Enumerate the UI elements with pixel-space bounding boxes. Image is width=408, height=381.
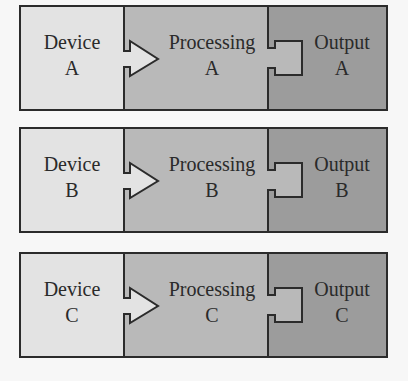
output-title: Output bbox=[302, 29, 382, 55]
output-title: Output bbox=[302, 151, 382, 177]
device-label: Device C bbox=[22, 276, 122, 328]
device-title: Device bbox=[22, 151, 122, 177]
processing-letter: A bbox=[157, 55, 267, 81]
processing-label: Processing B bbox=[157, 151, 267, 203]
device-label: Device A bbox=[22, 29, 122, 81]
device-title: Device bbox=[22, 29, 122, 55]
output-label: Output A bbox=[302, 29, 382, 81]
output-letter: C bbox=[302, 302, 382, 328]
processing-title: Processing bbox=[157, 29, 267, 55]
device-letter: C bbox=[22, 302, 122, 328]
pipeline-row-a: Device A Processing A Output A bbox=[0, 6, 408, 110]
device-label: Device B bbox=[22, 151, 122, 203]
processing-label: Processing C bbox=[157, 276, 267, 328]
output-label: Output B bbox=[302, 151, 382, 203]
processing-title: Processing bbox=[157, 276, 267, 302]
output-letter: B bbox=[302, 177, 382, 203]
output-title: Output bbox=[302, 276, 382, 302]
device-letter: A bbox=[22, 55, 122, 81]
processing-title: Processing bbox=[157, 151, 267, 177]
output-label: Output C bbox=[302, 276, 382, 328]
pipeline-row-c: Device C Processing C Output C bbox=[0, 253, 408, 357]
pipeline-row-b: Device B Processing B Output B bbox=[0, 128, 408, 232]
device-letter: B bbox=[22, 177, 122, 203]
device-title: Device bbox=[22, 276, 122, 302]
processing-letter: C bbox=[157, 302, 267, 328]
processing-letter: B bbox=[157, 177, 267, 203]
output-letter: A bbox=[302, 55, 382, 81]
processing-label: Processing A bbox=[157, 29, 267, 81]
